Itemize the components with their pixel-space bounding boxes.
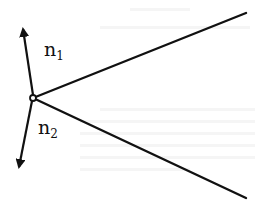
label-n1: n1 [44,40,64,62]
diagram-canvas [0,0,259,212]
diagram: n1 n2 [0,0,259,212]
label-n2-base: n [38,116,50,138]
label-n2-subscript: 2 [50,127,58,141]
label-n2: n2 [38,118,58,140]
vertex-circle [30,95,36,101]
normal-n2-arrow [19,101,32,167]
normal-n1-arrow [23,29,33,95]
lower-edge-line [33,98,246,198]
label-n1-base: n [44,38,56,60]
upper-edge-line [33,13,246,98]
label-n1-subscript: 1 [56,49,64,63]
